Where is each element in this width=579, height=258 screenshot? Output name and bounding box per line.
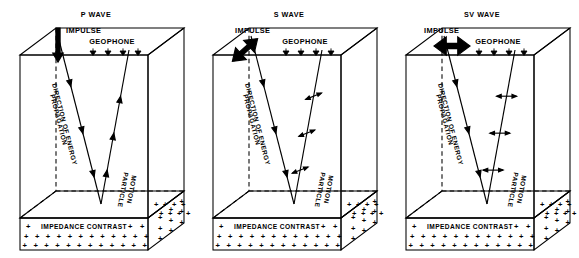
svg-text:+: + — [454, 232, 459, 241]
svg-text:+: + — [26, 222, 31, 231]
particle-motion-label: PARTICLEMOTION — [314, 172, 335, 209]
svg-text:+: + — [122, 232, 127, 241]
geophone-icon — [283, 48, 289, 55]
svg-text:+: + — [518, 241, 523, 250]
svg-text:+: + — [544, 224, 549, 233]
block-hidden-edges — [406, 28, 570, 218]
svg-text:+: + — [409, 241, 414, 250]
svg-text:+: + — [370, 209, 375, 218]
svg-text:+: + — [508, 232, 513, 241]
svg-text:+: + — [333, 222, 338, 231]
svg-text:+: + — [567, 200, 572, 209]
particle-motion-label: PARTICLEMOTION — [117, 172, 138, 209]
svg-text:+: + — [132, 241, 137, 250]
geophone-icon — [90, 48, 96, 55]
geophone-icon — [105, 48, 111, 55]
svg-text:+: + — [259, 241, 264, 250]
block-outline — [406, 28, 570, 218]
svg-text:+: + — [549, 200, 554, 209]
svg-text:+: + — [519, 232, 524, 241]
svg-text:+: + — [163, 200, 168, 209]
geophone-label: GEOPHONE — [89, 37, 135, 46]
svg-text:+: + — [410, 232, 415, 241]
impulse-label: IMPULSE — [66, 26, 101, 35]
impedance-contrast-label: IMPEDANCE CONTRAST — [234, 223, 320, 230]
svg-text:+: + — [292, 241, 297, 250]
svg-text:+: + — [219, 222, 224, 231]
geophone-label: GEOPHONE — [282, 37, 328, 46]
geophone-icon — [521, 48, 527, 55]
panel-title: SV WAVE — [464, 10, 500, 19]
svg-text:+: + — [361, 209, 366, 218]
svg-text:+: + — [465, 232, 470, 241]
svg-text:+: + — [99, 241, 104, 250]
svg-text:+: + — [66, 241, 71, 250]
svg-text:+: + — [314, 241, 319, 250]
svg-text:+: + — [374, 200, 379, 209]
svg-text:+: + — [239, 232, 244, 241]
svg-text:+: + — [248, 241, 253, 250]
svg-text:+: + — [443, 232, 448, 241]
impedance-contrast-layer: +IMPEDANCE CONTRAST+++++++++++++++++++++… — [406, 191, 577, 250]
svg-text:+: + — [158, 224, 163, 233]
svg-text:+: + — [304, 232, 309, 241]
impedance-side-face-symbols: +++++++++++++++++ — [347, 197, 384, 243]
svg-text:+: + — [144, 232, 149, 241]
svg-text:+: + — [540, 200, 545, 209]
impedance-side-face-symbols: +++++++++++++++++ — [540, 197, 577, 243]
svg-text:+: + — [172, 200, 177, 209]
svg-text:+: + — [514, 222, 519, 231]
svg-text:+: + — [321, 222, 326, 231]
svg-text:+: + — [57, 232, 62, 241]
svg-text:+: + — [158, 234, 163, 243]
geophone-icon — [491, 48, 497, 55]
svg-text:+: + — [89, 232, 94, 241]
geophone-icon — [298, 48, 304, 55]
geophone-group: GEOPHONE — [282, 37, 334, 55]
svg-text:+: + — [216, 241, 221, 250]
impulse-arrow-diagonal-double-headed — [232, 39, 257, 62]
svg-text:+: + — [545, 209, 550, 218]
svg-text:+: + — [282, 232, 287, 241]
svg-text:S WAVE: S WAVE — [274, 10, 305, 19]
svg-text:+: + — [140, 222, 145, 231]
impedance-side-face-symbols: +++++++++++++++++ — [154, 197, 191, 243]
svg-text:+: + — [558, 200, 563, 209]
svg-text:+: + — [177, 209, 182, 218]
svg-text:+: + — [315, 232, 320, 241]
svg-text:+: + — [356, 200, 361, 209]
svg-text:P WAVE: P WAVE — [81, 10, 112, 19]
svg-text:+: + — [168, 209, 173, 218]
svg-text:+: + — [303, 241, 308, 250]
svg-text:+: + — [128, 222, 133, 231]
impedance-contrast-label: IMPEDANCE CONTRAST — [427, 223, 513, 230]
geophone-icon — [313, 48, 319, 55]
svg-text:+: + — [143, 241, 148, 250]
impedance-contrast-layer: +IMPEDANCE CONTRAST+++++++++++++++++++++… — [213, 191, 384, 250]
geophone-icon — [120, 48, 126, 55]
svg-text:+: + — [121, 241, 126, 250]
svg-text:+: + — [44, 241, 49, 250]
svg-text:+: + — [496, 241, 501, 250]
svg-text:+: + — [181, 200, 186, 209]
svg-text:+: + — [111, 232, 116, 241]
svg-text:+: + — [351, 234, 356, 243]
block-outline — [20, 28, 184, 218]
svg-text:+: + — [169, 226, 174, 235]
impulse-arrow-horizontal-double-headed — [434, 37, 470, 55]
svg-text:+: + — [347, 200, 352, 209]
svg-text:+: + — [217, 232, 222, 241]
wave-panel-p-wave: P WAVE+IMPEDANCE CONTRAST+++++++++++++++… — [0, 0, 193, 258]
svg-text:+: + — [261, 232, 266, 241]
svg-text:+: + — [180, 218, 185, 227]
svg-text:+: + — [430, 241, 435, 250]
particle-motion-label: PARTICLEMOTION — [507, 172, 528, 209]
svg-text:+: + — [419, 241, 424, 250]
svg-text:+: + — [46, 232, 51, 241]
svg-text:+: + — [88, 241, 93, 250]
svg-text:+: + — [250, 232, 255, 241]
seismic-wave-diagram: P WAVE+IMPEDANCE CONTRAST+++++++++++++++… — [0, 0, 579, 258]
svg-text:+: + — [530, 232, 535, 241]
svg-text:+: + — [572, 209, 577, 218]
svg-text:+: + — [154, 200, 159, 209]
